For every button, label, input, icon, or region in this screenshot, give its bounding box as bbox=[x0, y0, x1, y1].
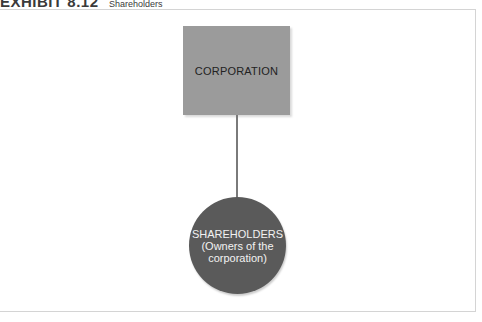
frame-top-border bbox=[0, 9, 476, 10]
corporation-node: CORPORATION bbox=[183, 26, 290, 115]
frame-right-border bbox=[475, 9, 476, 312]
exhibit-caption: Shareholders bbox=[109, 0, 163, 9]
corporation-label: CORPORATION bbox=[195, 65, 278, 77]
shareholders-node: SHAREHOLDERS (Owners of the corporation) bbox=[189, 197, 286, 294]
frame-bottom-border bbox=[0, 311, 476, 312]
shareholders-sublabel-line2: corporation) bbox=[208, 252, 267, 264]
corporation-shareholders-connector bbox=[236, 115, 238, 199]
shareholders-label: SHAREHOLDERS bbox=[192, 228, 283, 240]
shareholders-sublabel-line1: (Owners of the bbox=[201, 240, 273, 252]
